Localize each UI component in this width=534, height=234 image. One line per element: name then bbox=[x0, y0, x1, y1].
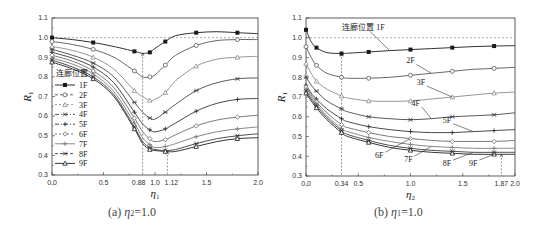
caption-b: (b) η1=1.0 bbox=[374, 205, 423, 220]
x-tick-label: 2.0 bbox=[510, 180, 520, 187]
x-extra-tick-label: 0.88 bbox=[132, 179, 146, 186]
y-tick-label: 1.1 bbox=[38, 14, 48, 21]
marker-circle-icon bbox=[91, 47, 95, 51]
marker-plus-icon bbox=[450, 130, 454, 134]
marker-circle-icon bbox=[194, 43, 198, 47]
x-extra-tick-label: 1.12 bbox=[165, 179, 179, 186]
series-inline-label: 3F bbox=[417, 78, 426, 87]
marker-square-icon bbox=[450, 46, 454, 50]
y-tick-label: 0.3 bbox=[292, 172, 302, 179]
legend-title: 连廊位置 bbox=[56, 68, 88, 78]
marker-square-icon bbox=[148, 50, 152, 54]
series-inline-label: 2F bbox=[406, 56, 415, 65]
legend-marker-plus-icon bbox=[63, 122, 67, 126]
marker-plus-icon bbox=[235, 97, 239, 101]
x-extra-tick-label: 1.87 bbox=[495, 180, 509, 187]
legend-item-label: 3F bbox=[79, 101, 88, 110]
series-5F bbox=[304, 83, 515, 135]
marker-triangle-icon bbox=[367, 99, 371, 103]
marker-plus-icon bbox=[450, 145, 454, 149]
series-inline-label: 7F bbox=[404, 155, 413, 164]
y-tick-label: 0.7 bbox=[38, 93, 48, 100]
marker-circle-icon bbox=[450, 69, 454, 73]
series-inline-label: 9F bbox=[469, 159, 478, 168]
marker-plus-icon bbox=[492, 128, 496, 132]
marker-circle-icon bbox=[304, 45, 308, 49]
y-tick-label: 1.0 bbox=[292, 34, 302, 41]
series-inline-label: 连廊位置 1F bbox=[342, 22, 385, 32]
marker-square-icon bbox=[163, 40, 167, 44]
marker-plus-icon bbox=[163, 127, 167, 131]
marker-star-icon bbox=[408, 118, 413, 122]
marker-triangle-icon bbox=[91, 55, 95, 59]
marker-square-icon bbox=[367, 50, 371, 54]
x-tick-label: 0.5 bbox=[99, 179, 109, 186]
label-arrow-icon bbox=[422, 107, 432, 119]
legend-item-label: 6F bbox=[79, 130, 88, 139]
legend-marker-triangle-icon bbox=[63, 161, 67, 165]
marker-star-icon bbox=[492, 113, 497, 117]
legend-item-label: 8F bbox=[79, 150, 88, 159]
marker-star-icon bbox=[91, 61, 96, 65]
marker-star-icon bbox=[147, 116, 152, 120]
y-tick-label: 0.4 bbox=[292, 153, 302, 160]
series-inline-label: 4F bbox=[411, 99, 420, 108]
marker-square-icon bbox=[235, 31, 239, 35]
marker-square-icon bbox=[492, 44, 496, 48]
x-tick-label: 1.0 bbox=[406, 180, 416, 187]
legend-item-label: 5F bbox=[79, 120, 88, 129]
marker-plus-icon bbox=[235, 127, 239, 131]
x-axis-label: η1 bbox=[151, 187, 160, 201]
marker-circle-icon bbox=[50, 40, 54, 44]
series-1F bbox=[304, 28, 515, 56]
marker-plus-icon bbox=[367, 124, 371, 128]
marker-triangle-icon bbox=[339, 94, 343, 98]
marker-plus-icon bbox=[194, 135, 198, 139]
marker-star-icon bbox=[314, 89, 319, 93]
y-tick-label: 0.6 bbox=[38, 112, 48, 119]
legend-item-label: 4F bbox=[79, 110, 88, 119]
legend-item-label: 2F bbox=[79, 91, 88, 100]
marker-triangle-icon bbox=[492, 91, 496, 95]
marker-plus-icon bbox=[408, 142, 412, 146]
series-inline-label: 6F bbox=[375, 151, 384, 160]
y-tick-label: 0.5 bbox=[292, 133, 302, 140]
marker-star-icon bbox=[194, 89, 199, 93]
legend: 连廊位置1F2F3F4F5F6F7F8F9F bbox=[55, 68, 88, 168]
x-tick-label: 2.0 bbox=[253, 179, 263, 186]
marker-square-icon bbox=[304, 28, 308, 32]
marker-circle-icon bbox=[492, 66, 496, 70]
y-axis-label: R1 bbox=[275, 91, 289, 103]
y-tick-label: 0.4 bbox=[38, 152, 48, 159]
marker-plus-icon bbox=[408, 129, 412, 133]
x-axis-label: η2 bbox=[406, 188, 415, 202]
marker-triangle-icon bbox=[235, 55, 239, 59]
marker-star-icon bbox=[163, 110, 168, 114]
caption-a-eq: =1.0 bbox=[134, 205, 156, 219]
y-tick-label: 0.8 bbox=[38, 73, 48, 80]
caption-a-prefix: (a) bbox=[108, 205, 121, 219]
marker-triangle-icon bbox=[148, 98, 152, 102]
series-inline-label: 5F bbox=[443, 116, 452, 125]
marker-diamond-icon bbox=[450, 139, 454, 143]
y-tick-label: 0.7 bbox=[292, 93, 302, 100]
marker-diamond-icon bbox=[367, 130, 371, 134]
y-axis-label: R1 bbox=[21, 91, 35, 103]
marker-plus-icon bbox=[194, 109, 198, 113]
marker-star-icon bbox=[132, 100, 137, 104]
y-tick-label: 0.3 bbox=[38, 171, 48, 178]
marker-triangle-icon bbox=[194, 64, 198, 68]
marker-square-icon bbox=[314, 46, 318, 50]
marker-plus-icon bbox=[163, 144, 167, 148]
marker-circle-icon bbox=[367, 76, 371, 80]
chart-panel-b: 0.30.40.50.60.70.80.91.01.10.00.51.01.52… bbox=[275, 14, 520, 202]
chart-figure: 0.30.40.50.60.70.80.91.01.10.00.51.01.52… bbox=[0, 0, 534, 234]
marker-diamond-icon bbox=[163, 137, 167, 141]
marker-circle-icon bbox=[148, 75, 152, 79]
label-arrow-icon bbox=[417, 64, 432, 73]
legend-item-label: 7F bbox=[79, 140, 88, 149]
label-arrow-icon bbox=[479, 154, 494, 160]
x-tick-label: 1.5 bbox=[202, 179, 212, 186]
y-tick-label: 0.8 bbox=[292, 74, 302, 81]
y-tick-label: 0.9 bbox=[292, 54, 302, 61]
